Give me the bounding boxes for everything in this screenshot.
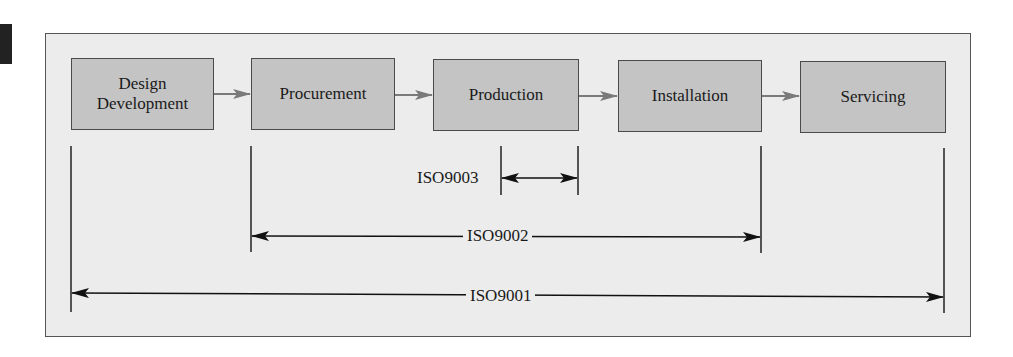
iso9002-label: ISO9002 — [463, 226, 532, 246]
iso9001-label: ISO9001 — [466, 286, 535, 306]
iso9003-label: ISO9003 — [413, 168, 482, 188]
flow-arrows — [214, 94, 799, 96]
